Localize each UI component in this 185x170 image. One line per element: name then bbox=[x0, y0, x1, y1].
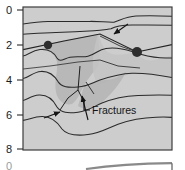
next-panel-fragment: 0 bbox=[6, 160, 172, 170]
seismic-section-figure: Fractures 0 2 4 6 8 0 bbox=[0, 0, 185, 170]
node-left-marker bbox=[44, 41, 52, 49]
figure-canvas: Fractures 0 2 4 6 8 0 bbox=[0, 0, 185, 170]
axis-tick-label-8: 8 bbox=[6, 143, 12, 155]
node-right-marker bbox=[132, 47, 142, 57]
next-panel-tick-label: 0 bbox=[6, 160, 12, 170]
y-axis: 0 2 4 6 8 bbox=[6, 4, 23, 155]
next-panel-top-border bbox=[86, 163, 172, 169]
axis-tick-label-4: 4 bbox=[6, 74, 12, 86]
fractures-label: Fractures bbox=[92, 104, 136, 116]
axis-tick-label-2: 2 bbox=[6, 39, 12, 51]
axis-tick-label-0: 0 bbox=[6, 4, 12, 16]
axis-tick-label-6: 6 bbox=[6, 109, 12, 121]
